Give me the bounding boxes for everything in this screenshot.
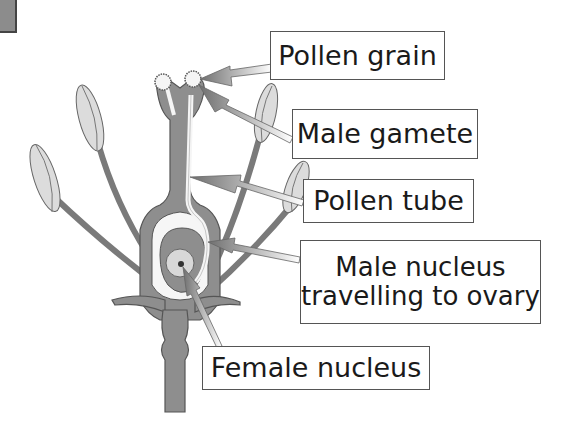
label-male-nucleus-line1: Male nucleus: [335, 253, 505, 282]
label-male-nucleus-line2: travelling to ovary: [301, 282, 540, 311]
label-female-nucleus: Female nucleus: [202, 346, 430, 390]
label-pollen-grain: Pollen grain: [270, 31, 445, 80]
label-female-nucleus-text: Female nucleus: [211, 353, 422, 383]
label-pollen-tube-text: Pollen tube: [313, 186, 464, 216]
female-nucleus-dot: [178, 261, 184, 267]
label-pollen-tube: Pollen tube: [303, 179, 474, 223]
label-male-gamete-text: Male gamete: [297, 119, 473, 149]
label-pollen-grain-text: Pollen grain: [278, 41, 437, 71]
label-male-nucleus: Male nucleus travelling to ovary: [300, 240, 541, 324]
label-male-gamete: Male gamete: [292, 109, 478, 159]
